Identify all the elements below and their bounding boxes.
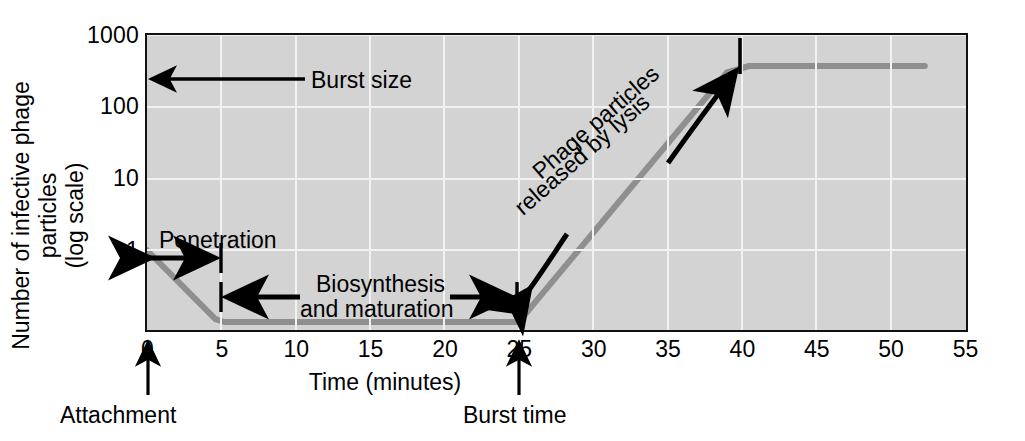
x-axis-tick-label: 0 [118, 338, 178, 361]
x-axis-title: Time (minutes) [245, 371, 525, 394]
y-axis-title-line1: Number of infective phage particles [8, 51, 62, 381]
callout-burst-time: Burst time [463, 404, 567, 427]
gridline-horizontal [147, 34, 966, 36]
x-axis-tick-label: 40 [712, 338, 772, 361]
x-axis-tick-label: 20 [415, 338, 475, 361]
annotation-biosynthesis-line1: Biosynthesis [316, 272, 445, 297]
x-axis-tick-label: 30 [564, 338, 624, 361]
gridline-vertical [220, 35, 222, 330]
annotation-biosynthesis-line2: and maturation [300, 297, 453, 322]
x-axis-tick-label: 45 [787, 338, 847, 361]
y-axis-tick-label: 10 [113, 167, 139, 190]
y-axis-tick-label: 100 [100, 95, 139, 118]
annotation-penetration: Penetration [159, 228, 277, 253]
x-axis-tick-label: 35 [638, 338, 698, 361]
gridline-vertical [667, 35, 669, 330]
gridline-vertical [890, 35, 892, 330]
y-axis-tick-label: 1 [126, 239, 139, 262]
gridline-horizontal [147, 106, 966, 108]
gridline-vertical [518, 35, 520, 330]
y-axis-tick-label: 1000 [87, 24, 139, 47]
callout-attachment: Attachment [60, 404, 176, 427]
x-axis-tick-label: 55 [936, 338, 996, 361]
x-axis-tick-label: 10 [266, 338, 326, 361]
y-axis-title: Number of infective phage particles (log… [8, 51, 89, 381]
gridline-vertical [592, 35, 594, 330]
gridline-vertical [741, 35, 743, 330]
phage-growth-curve-figure: 1000100101 0510152025303540455055 Number… [0, 0, 1025, 441]
x-axis-tick-label: 5 [192, 338, 252, 361]
annotation-burst-size: Burst size [311, 68, 412, 93]
gridline-vertical [295, 35, 297, 330]
x-axis-tick-label: 15 [341, 338, 401, 361]
x-axis-tick-label: 25 [489, 338, 549, 361]
x-axis-tick-label: 50 [861, 338, 921, 361]
y-axis-title-line2: (log scale) [62, 51, 89, 381]
gridline-vertical [815, 35, 817, 330]
